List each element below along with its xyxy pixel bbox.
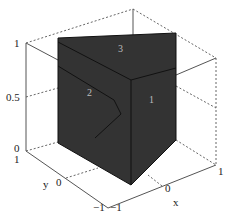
y-tick-1: 1 <box>14 153 20 165</box>
x-tick-1: 1 <box>218 165 224 177</box>
floor-y0 <box>66 168 98 178</box>
x-axis-label: x <box>173 196 179 208</box>
face-label-2: 2 <box>87 87 92 98</box>
top-right-edge <box>176 58 216 75</box>
floor-back-left <box>26 142 58 151</box>
floor-right <box>176 140 216 165</box>
floor-x0 <box>148 175 162 186</box>
y-tick-minus-1: −1 <box>93 201 105 213</box>
y-axis-label: y <box>43 178 49 190</box>
right-side-dash <box>176 86 216 108</box>
prism-body <box>58 33 176 185</box>
x-tick-0: 0 <box>165 182 171 194</box>
z-tick-1: 1 <box>14 37 20 49</box>
x-tick-minus-1: −1 <box>110 201 122 213</box>
face-label-3: 3 <box>118 43 123 54</box>
z-tick-0-5: 0.5 <box>6 91 20 103</box>
y-tick-0: 0 <box>56 176 62 188</box>
plot-3d: 3 2 1 1 0.5 0 1 0 −1 y −1 0 1 x <box>0 0 230 219</box>
face-label-1: 1 <box>149 94 154 105</box>
z-half-line <box>26 88 58 97</box>
top-front-left-edge <box>26 43 58 60</box>
